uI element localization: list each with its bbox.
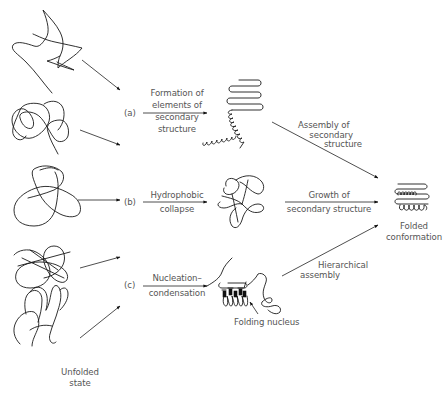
arrow-coil2-to-a	[80, 130, 120, 145]
random-coil-icon	[12, 10, 82, 346]
step-a-line4: structure	[146, 123, 208, 135]
hierarchical-line2: assembly	[300, 270, 368, 280]
step-a-line2: elements of	[146, 99, 208, 111]
molten-globule-icon	[218, 176, 264, 228]
folding-pathways-diagram: (a) Formation of elements of secondary s…	[0, 0, 448, 400]
start-state-line2: state	[58, 378, 102, 389]
arrow-coil4-to-c	[80, 257, 120, 268]
step-b-line1: Hydrophobic	[144, 188, 210, 202]
pathway-a-to-final-label: Assembly of secondary structure	[298, 121, 362, 150]
helix-and-sheet-icon	[203, 80, 263, 148]
pathway-c-step-label: Nucleation– condensation	[144, 271, 210, 301]
pathway-b-step-label: Hydrophobic collapse	[144, 188, 210, 216]
start-state-label: Unfolded state	[58, 367, 102, 389]
pathway-b-marker: (b)	[124, 196, 136, 208]
folding-nucleus-label: Folding nucleus	[234, 316, 299, 328]
pathway-b-to-final-label: Growth of secondary structure	[284, 188, 374, 216]
step-c-line2: condensation	[144, 286, 210, 301]
step-a-line3: secondary	[146, 111, 208, 123]
hierarchical-line1: Hierarchical	[300, 260, 368, 270]
arrow-coil1-to-a	[82, 60, 120, 90]
start-state-line1: Unfolded	[58, 367, 102, 378]
pathway-c-marker: (c)	[124, 279, 135, 291]
end-state-label: Folded conformation	[384, 221, 444, 243]
step-b-line2: collapse	[144, 202, 210, 216]
pathway-c-to-final-label: Hierarchical assembly	[300, 260, 368, 280]
folded-protein-icon	[395, 184, 429, 210]
growth-line2: secondary structure	[284, 202, 374, 216]
pathway-a-step-label: Formation of elements of secondary struc…	[146, 87, 208, 135]
step-a-line1: Formation of	[146, 87, 208, 99]
arrow-coil5-to-c	[80, 306, 120, 338]
growth-line1: Growth of	[284, 188, 374, 202]
step-c-line1: Nucleation–	[144, 271, 210, 286]
folding-nucleus-icon	[207, 258, 281, 314]
assembly-line3: structure	[298, 140, 362, 150]
pathway-a-marker: (a)	[124, 107, 136, 119]
end-state-line1: Folded	[384, 221, 444, 232]
end-state-line2: conformation	[384, 232, 444, 243]
